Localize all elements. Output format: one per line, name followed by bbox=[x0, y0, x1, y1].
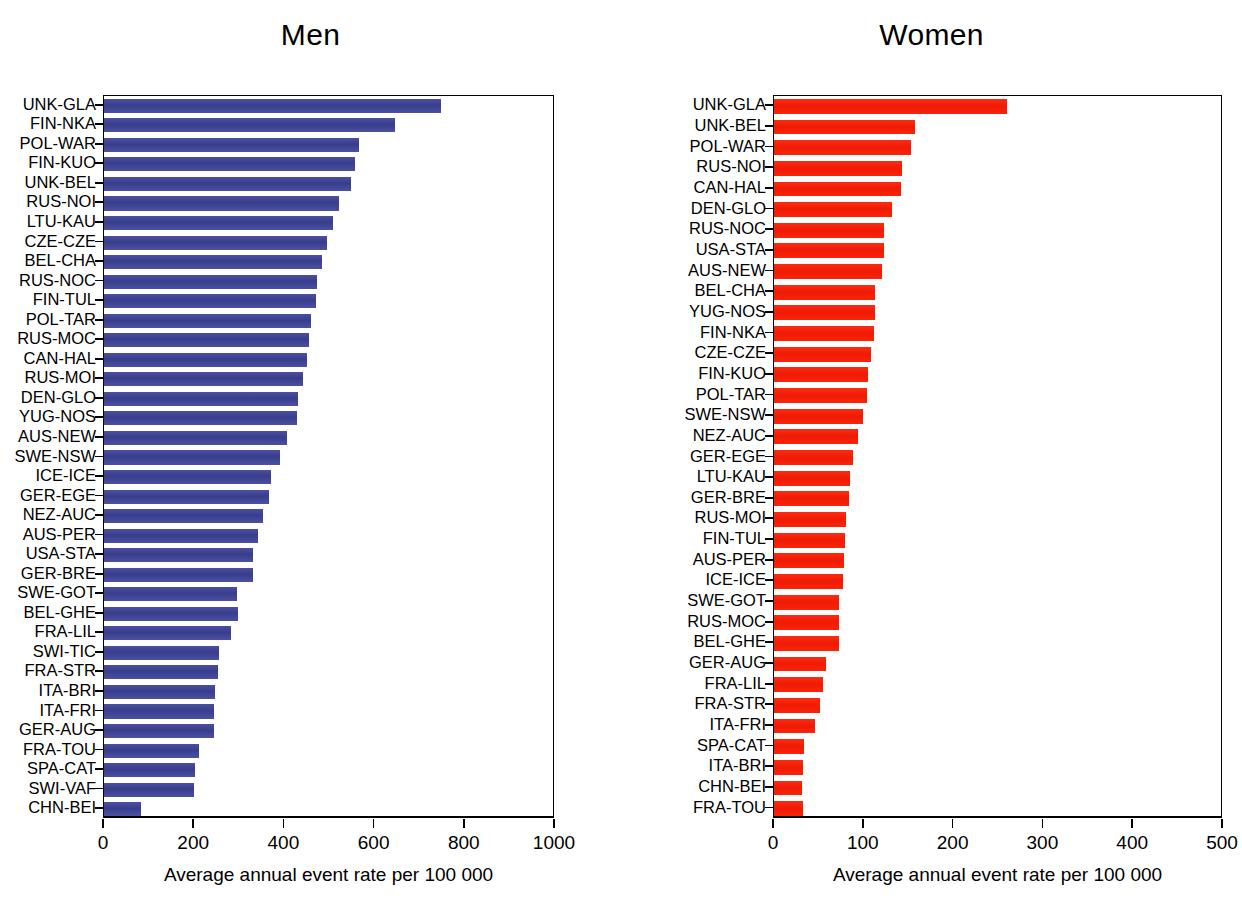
x-axis-tick-label: 800 bbox=[448, 832, 480, 854]
bar bbox=[104, 392, 298, 406]
bar bbox=[774, 512, 846, 527]
bar-row bbox=[104, 99, 555, 113]
y-axis-tick-label: NEZ-AUC bbox=[693, 427, 766, 443]
bar bbox=[774, 636, 839, 651]
bar-row bbox=[104, 333, 555, 347]
y-axis-tick-mark bbox=[765, 104, 773, 106]
bar bbox=[104, 587, 237, 601]
y-axis-tick-label: GER-AUG bbox=[689, 654, 766, 670]
bar bbox=[774, 264, 882, 279]
bar bbox=[774, 615, 839, 630]
y-axis-tick-label: GER-EGE bbox=[690, 448, 766, 464]
bar bbox=[104, 99, 441, 113]
y-axis-tick-mark bbox=[95, 338, 103, 340]
y-axis-tick-mark bbox=[765, 621, 773, 623]
bar bbox=[104, 490, 269, 504]
y-axis-tick-mark bbox=[95, 436, 103, 438]
bar bbox=[104, 353, 307, 367]
bar-row bbox=[774, 471, 1223, 486]
bar bbox=[104, 685, 215, 699]
y-axis-tick-mark bbox=[765, 270, 773, 272]
y-axis-tick-mark bbox=[95, 573, 103, 575]
x-axis-tick-label: 0 bbox=[98, 832, 109, 854]
y-axis-tick-mark bbox=[95, 729, 103, 731]
bar bbox=[774, 285, 875, 300]
bar bbox=[774, 657, 826, 672]
bar-row bbox=[104, 196, 555, 210]
y-axis-tick-mark bbox=[95, 670, 103, 672]
bar-row bbox=[104, 275, 555, 289]
y-axis-tick-mark bbox=[765, 703, 773, 705]
y-axis-tick-label: SWI-TIC bbox=[33, 643, 96, 659]
y-axis-tick-mark bbox=[95, 162, 103, 164]
bar-row bbox=[104, 548, 555, 562]
bar-row bbox=[104, 724, 555, 738]
y-axis-tick-label: GER-BRE bbox=[21, 565, 96, 581]
y-axis-tick-mark bbox=[765, 745, 773, 747]
bar bbox=[104, 509, 263, 523]
x-axis-tick-mark bbox=[1131, 819, 1133, 828]
bar-series-women bbox=[774, 96, 1221, 816]
bar-row bbox=[104, 236, 555, 250]
y-axis-tick-label: GER-EGE bbox=[20, 487, 96, 503]
bar bbox=[104, 470, 271, 484]
bar-row bbox=[774, 140, 1223, 155]
bar bbox=[774, 574, 843, 589]
bar-row bbox=[104, 157, 555, 171]
bar-row bbox=[774, 719, 1223, 734]
y-axis-tick-mark bbox=[95, 788, 103, 790]
y-axis-tick-label: BEL-GHE bbox=[24, 604, 96, 620]
bar bbox=[774, 719, 815, 734]
y-axis-tick-mark bbox=[95, 143, 103, 145]
bar-row bbox=[104, 138, 555, 152]
y-axis-tick-label: AUS-NEW bbox=[688, 262, 766, 278]
y-axis-tick-mark bbox=[765, 641, 773, 643]
bar bbox=[774, 409, 863, 424]
y-axis-tick-mark bbox=[95, 416, 103, 418]
y-axis-tick-mark bbox=[765, 807, 773, 809]
bar bbox=[774, 760, 803, 775]
x-axis-tick-label: 400 bbox=[1116, 832, 1148, 854]
bar bbox=[774, 161, 902, 176]
bar-row bbox=[104, 665, 555, 679]
bar-row bbox=[104, 392, 555, 406]
y-axis-tick-label: SWI-VAF bbox=[28, 780, 96, 796]
y-axis-tick-label: DEN-GLO bbox=[691, 200, 766, 216]
y-axis-tick-label: RUS-MOI bbox=[25, 369, 97, 385]
y-axis-tick-label: RUS-MOC bbox=[687, 613, 766, 629]
y-axis-tick-mark bbox=[765, 249, 773, 251]
bar bbox=[104, 529, 258, 543]
y-axis-tick-mark bbox=[95, 221, 103, 223]
y-axis-tick-mark bbox=[765, 476, 773, 478]
y-axis-tick-mark bbox=[95, 553, 103, 555]
bar-row bbox=[104, 529, 555, 543]
y-axis-tick-label: YUG-NOS bbox=[689, 303, 766, 319]
x-axis-tick-label: 600 bbox=[358, 832, 390, 854]
y-axis-tick-label: SWE-NSW bbox=[684, 406, 766, 422]
bar bbox=[774, 305, 875, 320]
bar-row bbox=[774, 305, 1223, 320]
bar-row bbox=[104, 353, 555, 367]
y-axis-tick-label: CHN-BEI bbox=[698, 778, 766, 794]
bar-row bbox=[774, 182, 1223, 197]
bar bbox=[774, 243, 884, 258]
y-axis-tick-label: POL-TAR bbox=[26, 311, 96, 327]
bar bbox=[774, 429, 858, 444]
y-axis-tick-label: ICE-ICE bbox=[705, 571, 766, 587]
y-axis-tick-label: CZE-CZE bbox=[25, 233, 97, 249]
bar-row bbox=[774, 347, 1223, 362]
y-axis-tick-mark bbox=[765, 166, 773, 168]
y-axis-tick-label: RUS-NOI bbox=[696, 158, 766, 174]
bar-row bbox=[104, 216, 555, 230]
bar bbox=[104, 802, 141, 816]
x-axis-tick-mark bbox=[553, 819, 555, 828]
bar bbox=[774, 326, 874, 341]
y-axis-tick-mark bbox=[95, 377, 103, 379]
x-axis-tick-mark bbox=[283, 819, 285, 828]
x-axis-title-men: Average annual event rate per 100 000 bbox=[103, 864, 554, 886]
bar-row bbox=[774, 533, 1223, 548]
y-axis-tick-mark bbox=[765, 456, 773, 458]
bar bbox=[104, 724, 214, 738]
bar-row bbox=[104, 177, 555, 191]
y-axis-tick-mark bbox=[95, 514, 103, 516]
